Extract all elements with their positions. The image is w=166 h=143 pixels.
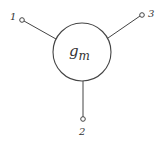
- terminal-3-node: [140, 13, 145, 18]
- terminal-1-node: [20, 18, 25, 23]
- terminal-3-label: 3: [148, 8, 154, 19]
- terminal-2-node: [81, 117, 86, 122]
- lead-3: [108, 16, 140, 38]
- circuit-diagram: 1 3 2 gm: [0, 0, 166, 143]
- element-label: gm: [69, 42, 90, 63]
- terminal-2-label: 2: [78, 126, 85, 137]
- diagram-canvas: 1 3 2 gm: [0, 0, 166, 143]
- terminal-1-label: 1: [10, 11, 16, 22]
- lead-1: [24, 21, 56, 39]
- element-label-sub: m: [79, 49, 90, 63]
- element-label-main: g: [69, 42, 79, 60]
